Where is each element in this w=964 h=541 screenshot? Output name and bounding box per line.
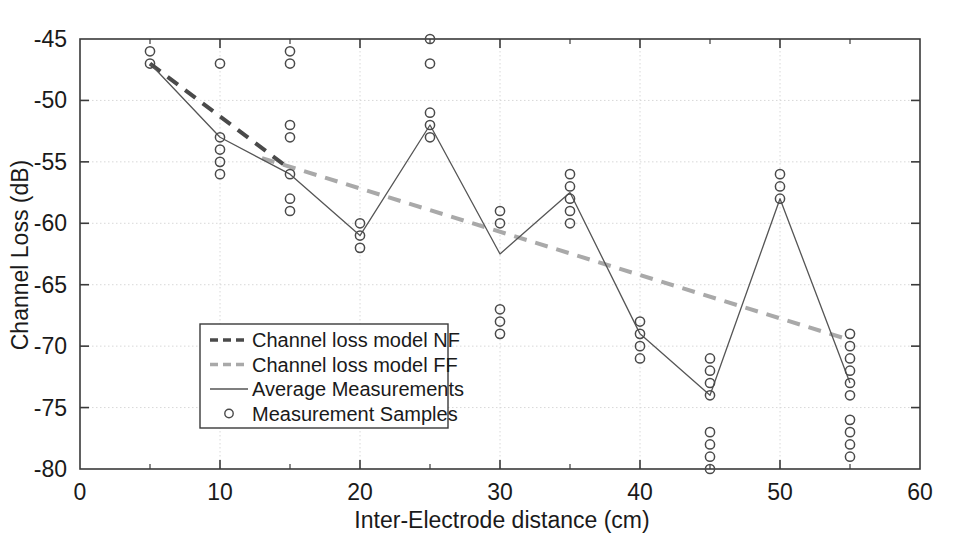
y-tick-label: -75 bbox=[34, 395, 67, 421]
legend-label: Channel loss model FF bbox=[252, 354, 458, 376]
x-tick-label: 50 bbox=[767, 479, 793, 505]
x-tick-label: 10 bbox=[207, 479, 233, 505]
y-tick-label: -65 bbox=[34, 272, 67, 298]
y-tick-label: -60 bbox=[34, 210, 67, 236]
x-tick-label: 0 bbox=[74, 479, 87, 505]
figure-background bbox=[0, 0, 964, 541]
y-tick-label: -55 bbox=[34, 149, 67, 175]
y-tick-label: -45 bbox=[34, 26, 67, 52]
y-axis-title: Channel Loss (dB) bbox=[7, 160, 33, 351]
x-tick-label: 60 bbox=[907, 479, 933, 505]
y-tick-label: -80 bbox=[34, 456, 67, 482]
legend-label: Channel loss model NF bbox=[252, 329, 460, 351]
chart-figure: 0102030405060 -80-75-70-65-60-55-50-45 I… bbox=[0, 0, 964, 541]
x-tick-label: 20 bbox=[347, 479, 373, 505]
legend-label: Measurement Samples bbox=[252, 403, 458, 425]
x-tick-label: 40 bbox=[627, 479, 653, 505]
channel-loss-scatter-plot: 0102030405060 -80-75-70-65-60-55-50-45 I… bbox=[0, 0, 964, 541]
y-tick-label: -70 bbox=[34, 333, 67, 359]
x-tick-label: 30 bbox=[487, 479, 513, 505]
x-axis-title: Inter-Electrode distance (cm) bbox=[354, 507, 649, 533]
y-tick-label: -50 bbox=[34, 87, 67, 113]
chart-legend: Channel loss model NFChannel loss model … bbox=[200, 324, 464, 428]
legend-label: Average Measurements bbox=[252, 378, 464, 400]
